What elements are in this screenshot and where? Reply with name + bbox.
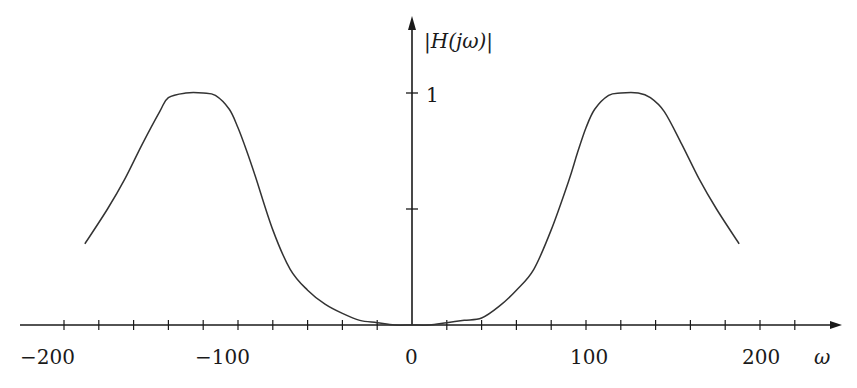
x-tick-label-0: 0 xyxy=(405,345,418,369)
y-tick-label-1: 1 xyxy=(426,83,439,107)
x-axis-label: ω xyxy=(814,345,830,369)
x-tick-label-m100: −100 xyxy=(195,345,250,369)
magnitude-response-chart: |H(jω)| 1 −200 −100 0 100 200 ω xyxy=(0,0,857,388)
y-axis-arrow-icon xyxy=(408,16,416,30)
x-tick-label-m200: −200 xyxy=(20,345,75,369)
x-tick-label-200: 200 xyxy=(742,345,780,369)
x-tick-label-100: 100 xyxy=(570,345,608,369)
y-axis xyxy=(406,16,418,325)
x-axis-arrow-icon xyxy=(830,321,842,329)
y-axis-label: |H(jω)| xyxy=(424,29,493,54)
